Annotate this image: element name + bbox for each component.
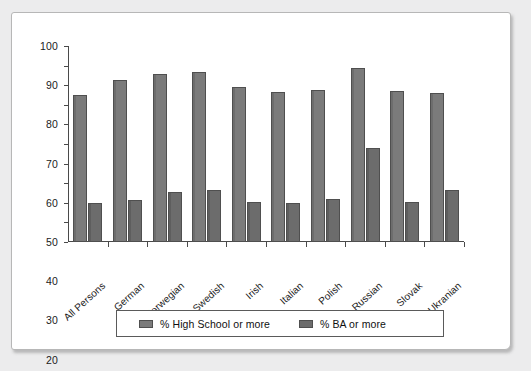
bar-group: [192, 46, 221, 242]
bar-ba: [88, 203, 102, 242]
x-tick-mark: [226, 242, 227, 247]
bar-ba: [128, 200, 142, 242]
legend-item-ba: % BA or more: [299, 316, 386, 332]
y-tick-mark: 80: [64, 85, 68, 86]
y-tick-label: 90: [46, 79, 58, 91]
chart-legend: % High School or more % BA or more: [116, 310, 444, 337]
bar-high-school: [73, 95, 87, 242]
bar-high-school: [113, 80, 127, 242]
y-tick-label: 20: [46, 354, 58, 366]
y-tick-label: 40: [46, 275, 58, 287]
bar-group: [73, 46, 102, 242]
bar-group: [311, 46, 340, 242]
x-category-label: Irish: [244, 280, 266, 301]
y-axis-line: [68, 46, 69, 242]
x-tick-mark: [187, 242, 188, 247]
y-tick-mark: 60: [64, 124, 68, 125]
x-category-label: Polish: [317, 280, 345, 307]
y-tick-label: 70: [46, 158, 58, 170]
bar-ba: [445, 190, 459, 242]
y-tick-mark: 100: [64, 46, 68, 47]
x-tick-mark: [385, 242, 386, 247]
x-category-label: Russian: [350, 280, 385, 313]
bar-ba: [286, 203, 300, 242]
scanned-page-card: 0102030405060708090100 All PersonsGerman…: [11, 12, 511, 350]
x-tick-mark: [424, 242, 425, 247]
bar-group: [232, 46, 261, 242]
bar-high-school: [390, 91, 404, 242]
bar-group: [271, 46, 300, 242]
x-category-label: Swedish: [190, 280, 226, 314]
legend-label: % High School or more: [160, 318, 270, 330]
x-tick-mark: [306, 242, 307, 247]
y-tick-label: 60: [46, 197, 58, 209]
x-category-label: German: [112, 280, 147, 313]
y-tick-mark: 70: [64, 105, 68, 106]
bar-group: [351, 46, 380, 242]
x-tick-mark: [266, 242, 267, 247]
bar-ba: [247, 202, 261, 242]
bar-high-school: [271, 92, 285, 242]
bar-high-school: [153, 74, 167, 242]
bar-ba: [168, 192, 182, 242]
bar-chart: 0102030405060708090100 All PersonsGerman…: [12, 13, 512, 351]
y-tick-mark: 10: [64, 222, 68, 223]
y-tick-mark: 50: [64, 144, 68, 145]
y-tick-mark: 20: [64, 203, 68, 204]
bar-high-school: [192, 72, 206, 242]
y-tick-label: 30: [46, 314, 58, 326]
x-tick-mark: [108, 242, 109, 247]
x-tick-mark: [345, 242, 346, 247]
y-tick-mark: 30: [64, 183, 68, 184]
y-tick-mark: 90: [64, 66, 68, 67]
legend-label: % BA or more: [320, 318, 386, 330]
x-category-label: Italian: [277, 280, 305, 307]
bar-group: [430, 46, 459, 242]
bar-high-school: [232, 87, 246, 242]
bar-group: [153, 46, 182, 242]
bar-ba: [207, 190, 221, 242]
legend-swatch-icon: [299, 320, 313, 328]
y-tick-label: 50: [46, 236, 58, 248]
plot-area: 0102030405060708090100 All PersonsGerman…: [68, 46, 464, 242]
bar-group: [390, 46, 419, 242]
y-tick-mark: 40: [64, 164, 68, 165]
bar-high-school: [430, 93, 444, 242]
legend-item-high-school: % High School or more: [139, 316, 270, 332]
bar-high-school: [351, 68, 365, 242]
bar-ba: [366, 148, 380, 242]
bar-ba: [326, 199, 340, 242]
legend-swatch-icon: [139, 320, 153, 328]
y-tick-label: 100: [40, 40, 58, 52]
y-tick-label: 80: [46, 118, 58, 130]
x-category-label: All Persons: [61, 280, 107, 323]
x-tick-mark: [147, 242, 148, 247]
bar-high-school: [311, 90, 325, 242]
x-category-label: Slovak: [394, 280, 424, 309]
bar-ba: [405, 202, 419, 242]
y-tick-mark: 0: [64, 242, 68, 243]
bar-group: [113, 46, 142, 242]
x-tick-mark: [464, 242, 465, 247]
